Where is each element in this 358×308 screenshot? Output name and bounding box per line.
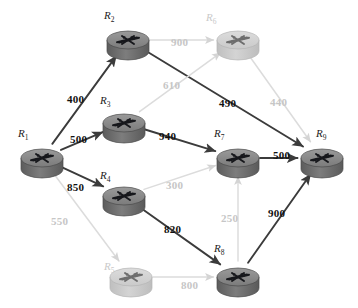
edge-r3-r7	[144, 129, 215, 151]
edge-weight-r6-r9: 440	[270, 97, 287, 108]
node-label-base: R	[18, 127, 25, 139]
router-node-r2[interactable]	[107, 31, 149, 60]
node-label-subscript: 5	[111, 266, 115, 275]
node-label-subscript: 8	[221, 248, 225, 257]
node-label-base: R	[214, 127, 221, 139]
node-label-subscript: 2	[111, 15, 115, 24]
node-label-subscript: 4	[107, 175, 111, 184]
edge-weight-r1-r3: 500	[70, 134, 87, 145]
router-node-r4[interactable]	[103, 187, 145, 216]
node-label-base: R	[104, 260, 111, 272]
node-label-r5: R5	[104, 261, 114, 275]
node-label-base: R	[100, 94, 107, 106]
router-node-r6[interactable]	[217, 31, 259, 60]
node-layer	[21, 31, 343, 297]
network-diagram: 4005008505509004906109403008208004405002…	[0, 0, 358, 308]
node-label-r9: R9	[316, 128, 326, 142]
router-node-r3[interactable]	[103, 114, 145, 143]
edge-weight-r4-r8: 820	[164, 224, 181, 235]
node-label-subscript: 9	[323, 133, 327, 142]
node-label-base: R	[104, 9, 111, 21]
edge-weight-r8-r7: 250	[221, 213, 238, 224]
router-node-r9[interactable]	[301, 149, 343, 178]
edge-weight-r1-r5: 550	[51, 216, 68, 227]
edge-weight-r2-r6: 900	[171, 37, 188, 48]
node-label-r2: R2	[104, 10, 114, 24]
edge-weight-r5-r8: 800	[181, 280, 198, 291]
router-node-r1[interactable]	[21, 149, 63, 178]
router-node-r8[interactable]	[217, 268, 259, 297]
edge-weight-r2-r9: 490	[219, 98, 236, 109]
node-label-base: R	[100, 169, 107, 181]
edge-weight-r8-r9: 900	[268, 208, 285, 219]
node-label-subscript: 6	[213, 17, 217, 26]
edge-weight-r4-r7: 300	[166, 180, 183, 191]
node-label-r4: R4	[100, 170, 110, 184]
node-label-subscript: 7	[221, 133, 225, 142]
edge-weight-r3-r7: 940	[159, 131, 176, 142]
node-label-r3: R3	[100, 95, 110, 109]
router-node-r7[interactable]	[217, 149, 259, 178]
node-label-base: R	[214, 242, 221, 254]
router-node-r5[interactable]	[110, 268, 152, 297]
edge-weight-r1-r4: 850	[67, 182, 84, 193]
node-label-subscript: 1	[25, 133, 29, 142]
node-label-r1: R1	[18, 128, 28, 142]
node-label-r8: R8	[214, 243, 224, 257]
edge-layer	[52, 40, 310, 277]
node-label-base: R	[206, 11, 213, 23]
node-label-subscript: 3	[107, 100, 111, 109]
node-label-r6: R6	[206, 12, 216, 26]
edge-r4-r8	[140, 207, 221, 264]
node-label-r7: R7	[214, 128, 224, 142]
edge-weight-r1-r2: 400	[67, 94, 84, 105]
edge-weight-r3-r6: 610	[163, 80, 180, 91]
node-label-base: R	[316, 127, 323, 139]
edge-weight-r7-r9: 500	[273, 150, 290, 161]
